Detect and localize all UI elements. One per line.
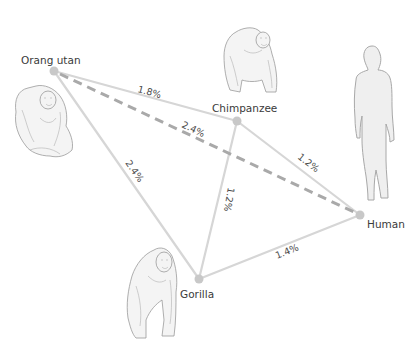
node-dot-orangutan <box>50 67 59 76</box>
edges <box>54 71 360 279</box>
human-silhouette-icon <box>354 46 394 200</box>
edge-label-gorilla-human: 1.4% <box>274 242 301 261</box>
nodes <box>50 67 365 284</box>
node-dot-human <box>356 211 365 220</box>
node-dot-gorilla <box>195 275 204 284</box>
chimpanzee-icon <box>224 28 277 92</box>
orangutan-icon <box>15 85 72 156</box>
edge-label-orangutan-human: 2.4% <box>180 119 207 139</box>
node-dot-chimpanzee <box>233 117 242 126</box>
node-label-chimpanzee: Chimpanzee <box>212 102 277 114</box>
gorilla-icon <box>127 248 177 338</box>
edge-label-chimpanzee-gorilla: 1.2% <box>222 187 237 213</box>
edge-gorilla-human <box>199 215 360 279</box>
node-label-gorilla: Gorilla <box>180 288 214 300</box>
edge-label-chimpanzee-human: 1.2% <box>296 151 322 175</box>
node-label-orangutan: Orang utan <box>21 54 81 66</box>
edge-chimpanzee-human <box>237 121 360 215</box>
edge-label-orangutan-gorilla: 2.4% <box>123 158 146 184</box>
genetic-distance-diagram: Orang utan Chimpanzee Human Gorilla 1.8%… <box>0 0 416 356</box>
node-label-human: Human <box>367 218 405 230</box>
edge-orangutan-gorilla <box>54 71 199 279</box>
